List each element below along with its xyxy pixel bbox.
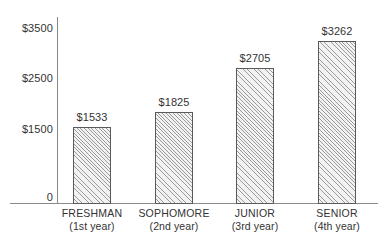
bar-senior[interactable]: [318, 41, 356, 204]
bar-freshman[interactable]: [73, 127, 111, 204]
plot-area: $1533 $1825 $2705 $3262: [0, 0, 389, 242]
bar-sophomore[interactable]: [155, 112, 193, 204]
x-axis-label-senior-sub: (4th year): [287, 220, 387, 233]
x-axis-label-senior: SENIOR (4th year): [287, 207, 387, 233]
bar-value-senior: $3262: [307, 26, 367, 37]
bar-chart: $3500 $2500 $1500 0 $1533 $1825 $2705 $3…: [0, 0, 389, 242]
bar-value-freshman: $1533: [62, 112, 122, 123]
x-axis-label-senior-name: SENIOR: [287, 207, 387, 220]
bar-junior[interactable]: [236, 68, 274, 204]
bar-value-junior: $2705: [225, 53, 285, 64]
bar-value-sophomore: $1825: [144, 97, 204, 108]
